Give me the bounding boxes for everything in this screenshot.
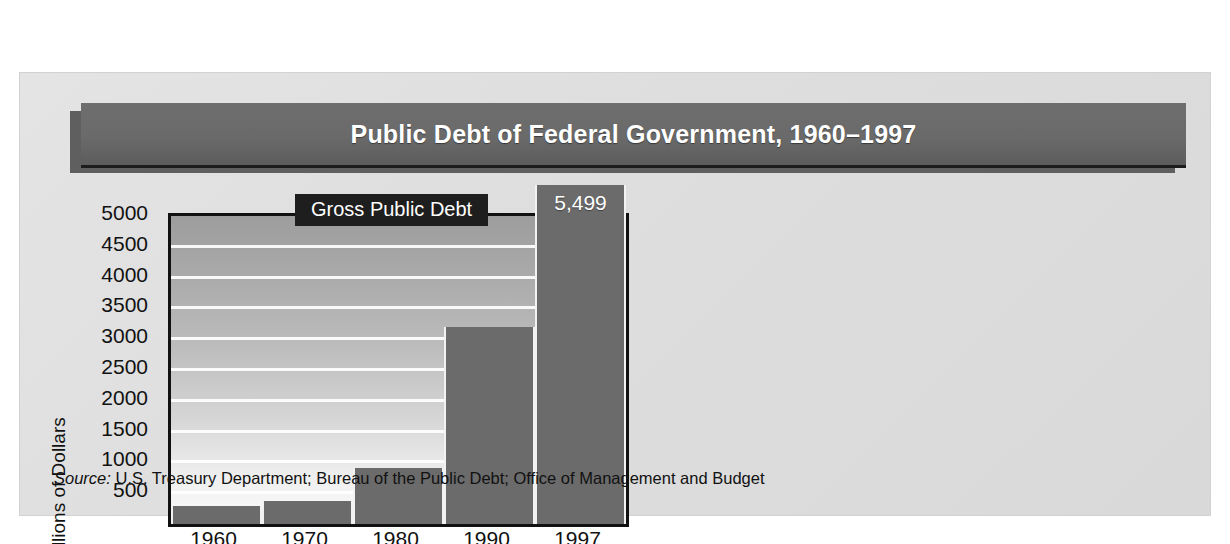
y-tick-label: 2500 (101, 355, 148, 379)
source-label: Source: (54, 469, 111, 487)
y-tick-label: 1500 (101, 417, 148, 441)
x-tick-label: 1970 (259, 527, 350, 544)
y-tick-label: 4500 (101, 232, 148, 256)
y-axis-title-left: Billions of Dollars (48, 353, 70, 544)
source-note: Source: U.S. Treasury Department; Bureau… (54, 469, 765, 488)
bar-cell: 5,499 (535, 96, 626, 524)
bar-cell (353, 96, 444, 524)
y-tick-label: 3500 (101, 293, 148, 317)
source-text: U.S. Treasury Department; Bureau of the … (111, 469, 765, 487)
x-tick-label: 1980 (350, 527, 441, 544)
y-axis-ticks-left: 500100015002000250030003500400045005000 (70, 183, 148, 544)
bar-series-gross-public-debt: 5,499 (171, 96, 626, 524)
series-label-gross-public-debt: Gross Public Debt (295, 194, 488, 226)
bar-value-label: 5,499 (537, 191, 624, 215)
y-tick-label: 5000 (101, 201, 148, 225)
y-tick-label: 4000 (101, 263, 148, 287)
x-tick-label: 1990 (441, 527, 532, 544)
x-tick-label: 1960 (168, 527, 259, 544)
chart-panel-gross-public-debt: Billions of Dollars 50010001500200025003… (20, 183, 640, 544)
figure-card: Public Debt of Federal Government, 1960–… (20, 73, 1210, 515)
chart-panel-interest-paid: Billions of Dollars 40801201602002402803… (640, 183, 1220, 544)
y-tick-label: 2000 (101, 386, 148, 410)
y-tick-label: 3000 (101, 324, 148, 348)
bar-cell (444, 96, 535, 524)
y-tick-label: 1000 (101, 447, 148, 471)
bar-1990[interactable] (444, 327, 535, 524)
bar-cell (262, 96, 353, 524)
bar-1960[interactable] (171, 506, 262, 524)
x-tick-label: 1997 (532, 527, 623, 544)
bar-1970[interactable] (262, 501, 353, 524)
x-axis-labels-left: 19601970198019901997 (168, 527, 623, 544)
bar-cell (171, 96, 262, 524)
